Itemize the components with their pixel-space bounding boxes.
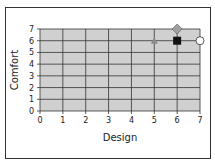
y-tick-label: 4 bbox=[29, 60, 34, 69]
y-axis-label: Comfort bbox=[9, 50, 20, 91]
y-tick-label: 6 bbox=[29, 37, 34, 46]
y-tick-label: 1 bbox=[29, 95, 34, 104]
x-tick-label: 6 bbox=[175, 116, 180, 125]
square-marker bbox=[173, 37, 181, 45]
x-tick-label: 2 bbox=[83, 116, 88, 125]
y-tick-label: 3 bbox=[29, 72, 34, 81]
x-tick-label: 4 bbox=[129, 116, 134, 125]
x-axis-label: Design bbox=[103, 132, 138, 143]
scatter-chart: 0123456701234567 Design Comfort bbox=[0, 0, 215, 164]
x-tick-label: 7 bbox=[197, 116, 202, 125]
x-tick-label: 3 bbox=[106, 116, 111, 125]
y-tick-label: 0 bbox=[29, 107, 34, 116]
plot-area: 0123456701234567 bbox=[29, 24, 204, 125]
circle-marker bbox=[196, 37, 204, 45]
x-tick-label: 5 bbox=[152, 116, 157, 125]
x-tick-label: 1 bbox=[60, 116, 65, 125]
y-tick-label: 7 bbox=[29, 25, 34, 34]
y-tick-label: 5 bbox=[29, 48, 34, 57]
x-tick-label: 0 bbox=[37, 116, 42, 125]
y-tick-label: 2 bbox=[29, 84, 34, 93]
